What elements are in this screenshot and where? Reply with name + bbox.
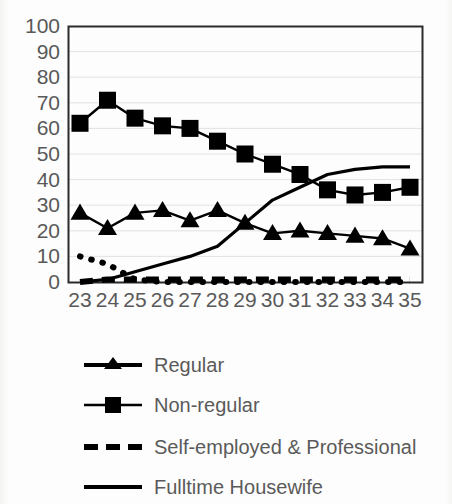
data-point-marker — [292, 166, 309, 183]
y-axis-tick-label: 0 — [48, 270, 60, 293]
line-chart-plot: 0102030405060708090100 23242526272829303… — [0, 0, 452, 330]
line-square-marker-icon — [82, 393, 144, 417]
y-axis-tick-label: 80 — [37, 65, 60, 88]
y-axis-tick-label: 70 — [37, 91, 60, 114]
y-axis-tick-label: 10 — [37, 244, 60, 267]
legend-item-regular[interactable]: Regular — [82, 348, 224, 382]
line-triangle-marker-icon — [82, 353, 144, 377]
x-axis-tick-label: 29 — [233, 288, 256, 311]
data-point-marker — [98, 219, 117, 235]
x-axis-tick-label: 32 — [316, 288, 339, 311]
legend-item-non-regular[interactable]: Non-regular — [82, 388, 260, 422]
chart-figure: 0102030405060708090100 23242526272829303… — [0, 0, 452, 504]
chart-legend: RegularNon-regularSelf-employed & Profes… — [0, 330, 452, 504]
data-point-marker — [99, 92, 116, 109]
y-axis-tick-label: 50 — [37, 142, 60, 165]
data-point-marker — [347, 186, 364, 203]
y-axis-tick-label: 30 — [37, 193, 60, 216]
legend-item-self-employed-professional[interactable]: Self-employed & Professional — [82, 430, 416, 464]
legend-item-label: Self-employed & Professional — [154, 435, 416, 459]
series-non-regular — [72, 92, 419, 204]
x-axis-tick-label: 35 — [398, 288, 421, 311]
dashed-line-icon — [82, 435, 144, 459]
data-point-marker — [237, 146, 254, 163]
y-axis-tick-label: 40 — [37, 168, 60, 191]
data-point-marker — [291, 222, 310, 238]
series-line — [80, 167, 410, 282]
x-axis-tick-label: 30 — [261, 288, 284, 311]
y-axis-tick-label: 100 — [25, 14, 60, 37]
data-point-marker — [319, 181, 336, 198]
data-point-marker — [127, 110, 144, 127]
solid-line-icon — [82, 475, 144, 499]
legend-item-fulltime-housewife[interactable]: Fulltime Housewife — [82, 470, 323, 504]
series-regular — [71, 201, 420, 255]
data-point-marker — [72, 115, 89, 132]
y-axis-tick-label: 60 — [37, 116, 60, 139]
data-point-marker — [153, 201, 172, 217]
data-point-marker — [208, 201, 227, 217]
y-axis-tick-label: 20 — [37, 219, 60, 242]
data-series-layer — [71, 92, 420, 282]
data-point-marker — [182, 120, 199, 137]
x-axis-tick-label: 28 — [206, 288, 229, 311]
data-point-marker — [209, 133, 226, 150]
x-axis-tick-label: 26 — [151, 288, 174, 311]
x-axis-tick-label: 31 — [288, 288, 311, 311]
data-point-marker — [374, 184, 391, 201]
x-axis-tick-label: 25 — [123, 288, 146, 311]
y-axis-tick-label: 90 — [37, 40, 60, 63]
x-axis-tick-label: 23 — [68, 288, 91, 311]
data-point-marker — [264, 156, 281, 173]
data-point-marker — [154, 117, 171, 134]
legend-item-label: Fulltime Housewife — [154, 475, 323, 499]
data-point-marker — [402, 179, 419, 196]
x-axis-tick-label: 27 — [178, 288, 201, 311]
x-axis-tick-label: 24 — [96, 288, 120, 311]
data-point-marker — [71, 204, 90, 220]
x-axis-tick-labels: 23242526272829303132333435 — [68, 288, 421, 311]
series-fulltime-housewife — [80, 167, 410, 282]
x-axis-tick-label: 34 — [371, 288, 395, 311]
legend-item-label: Regular — [154, 353, 224, 377]
x-axis-tick-label: 33 — [343, 288, 366, 311]
legend-item-label: Non-regular — [154, 393, 260, 417]
y-axis-tick-labels: 0102030405060708090100 — [25, 14, 60, 293]
